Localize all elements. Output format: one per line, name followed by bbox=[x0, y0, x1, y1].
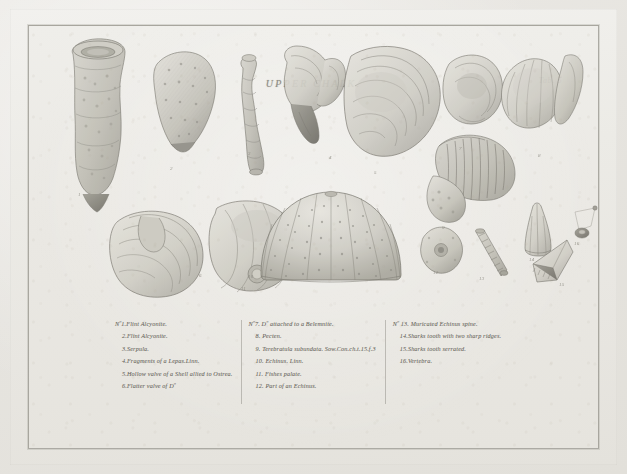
figure-5-ostrea-hollow-valve bbox=[344, 46, 440, 156]
caption-line: 14.Sharks tooth with two sharp ridges. bbox=[400, 330, 530, 342]
figure-number-8: 8 bbox=[538, 153, 541, 158]
figure-3-serpula bbox=[241, 55, 264, 175]
paper-sheet: UPPER CHALK. Tab. 5 bbox=[10, 9, 617, 465]
figure-number-3: 3 bbox=[248, 151, 251, 156]
caption-line: 6.Flatter valve of Dº bbox=[122, 380, 233, 392]
figure-number-4: 4 bbox=[329, 155, 332, 160]
caption-line: 11. Fishes palate. bbox=[256, 368, 377, 380]
figure-number-16: 16 bbox=[574, 241, 579, 246]
caption-line: 3.Serpula. bbox=[122, 343, 233, 355]
caption-divider-rule bbox=[385, 320, 386, 404]
figure-14-sharks-tooth-ridged bbox=[525, 203, 551, 256]
caption-column-one: Nº1.Flint Alcyonite. 2.Flint Alcyonite. … bbox=[107, 318, 241, 410]
figure-number-2: 2 bbox=[170, 166, 173, 171]
figure-number-9: 9 bbox=[442, 225, 445, 230]
figure-9-terebratula-subundata bbox=[427, 135, 515, 222]
caption-line: 16.Vertebra. bbox=[400, 355, 530, 367]
figure-number-14: 14 bbox=[529, 257, 534, 262]
figure-number-5: 5 bbox=[374, 170, 377, 175]
caption-line: 12. Part of an Echinus. bbox=[256, 380, 377, 392]
figure-8-pecten bbox=[502, 55, 584, 128]
figure-1-flint-alcyonite bbox=[72, 39, 125, 212]
figure-number-12: 12 bbox=[433, 270, 438, 275]
figure-number-11: 11 bbox=[241, 286, 246, 291]
figure-number-1: 1 bbox=[78, 192, 81, 197]
figure-12-part-of-echinus bbox=[421, 227, 463, 273]
caption-line: Nº 13. Muricated Echinus spine. bbox=[393, 318, 530, 330]
figure-number-15: 15 bbox=[559, 282, 564, 287]
figure-10-echinus bbox=[261, 191, 401, 282]
caption-divider-rule bbox=[241, 320, 242, 404]
caption-line: 4.Fragments of a Lepas.Linn. bbox=[122, 355, 233, 367]
caption-line: Nº7. Dº attached to a Belemnite. bbox=[249, 318, 377, 330]
caption-column-three: Nº 13. Muricated Echinus spine. 14.Shark… bbox=[385, 318, 538, 410]
engraved-plate: UPPER CHALK. Tab. 5 bbox=[0, 0, 627, 474]
caption-line: Nº1.Flint Alcyonite. bbox=[115, 318, 233, 330]
figure-16-vertebra bbox=[575, 206, 597, 238]
plate-mark-border: UPPER CHALK. Tab. 5 bbox=[28, 25, 599, 449]
caption-key: Nº1.Flint Alcyonite. 2.Flint Alcyonite. … bbox=[107, 318, 538, 410]
figure-13-muricated-echinus-spine bbox=[476, 229, 509, 276]
figure-6-ostrea-flat-valve bbox=[110, 211, 203, 297]
caption-line: 8. Pecten. bbox=[256, 330, 377, 342]
caption-line: 9. Terebratula subundata. Sow.Con.ch.t.1… bbox=[256, 343, 377, 355]
figure-number-6: 6 bbox=[199, 273, 202, 278]
caption-line: 15.Sharks tooth serrated. bbox=[400, 343, 530, 355]
figure-number-13: 13 bbox=[479, 276, 484, 281]
figure-2-flint-alcyonite bbox=[154, 52, 216, 152]
figure-4-lepas-fragments bbox=[284, 46, 345, 143]
caption-line: 5.Hollow valve of a Shell allied to Ostr… bbox=[122, 368, 233, 380]
figure-7-shell-on-belemnite bbox=[443, 55, 503, 124]
caption-column-two: Nº7. Dº attached to a Belemnite. 8. Pect… bbox=[241, 318, 385, 410]
figure-number-10: 10 bbox=[248, 274, 253, 279]
caption-line: 10. Echinus. Linn. bbox=[256, 355, 377, 367]
caption-line: 2.Flint Alcyonite. bbox=[122, 330, 233, 342]
figure-number-7: 7 bbox=[459, 146, 462, 151]
